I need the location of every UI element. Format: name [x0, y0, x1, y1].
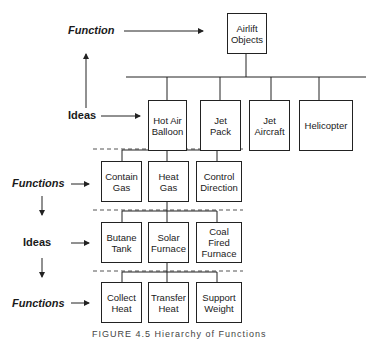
level-label-ideas: Ideas	[68, 109, 96, 121]
level-label-ideas-2: Ideas	[23, 236, 51, 248]
box-contain-gas: Contain Gas	[101, 161, 142, 202]
figure-caption: FIGURE 4.5 Hierarchy of Functions	[92, 329, 267, 339]
box-text: Butane Tank	[106, 232, 136, 254]
box-text: Transfer Heat	[151, 292, 186, 314]
box-coal-fired-furnace: Coal Fired Furnace	[196, 222, 242, 263]
box-heat-gas: Heat Gas	[148, 161, 189, 202]
box-hot-air-balloon: Hot Air Balloon	[148, 100, 187, 151]
box-text: Hot Air Balloon	[152, 115, 184, 137]
box-airlift-objects: Airlift Objects	[227, 13, 267, 54]
box-text: Heat Gas	[158, 171, 178, 193]
level-label-function: Function	[68, 24, 114, 36]
box-jet-pack: Jet Pack	[200, 100, 241, 151]
box-text: Support Weight	[202, 292, 235, 314]
box-jet-aircraft: Jet Aircraft	[249, 100, 290, 151]
box-text: Jet Aircraft	[254, 115, 284, 137]
level-label-functions-2: Functions	[12, 297, 65, 309]
box-text: Helicopter	[305, 120, 348, 131]
box-control-direction: Control Direction	[196, 161, 242, 202]
box-text: Control Direction	[200, 171, 238, 193]
box-transfer-heat: Transfer Heat	[148, 282, 189, 323]
box-text: Airlift Objects	[231, 23, 263, 45]
box-text: Jet Pack	[210, 115, 231, 137]
box-text: Collect Heat	[107, 292, 136, 314]
box-text: Coal Fired Furnace	[202, 226, 237, 259]
box-helicopter: Helicopter	[299, 100, 353, 151]
box-support-weight: Support Weight	[196, 282, 242, 323]
level-label-functions-1: Functions	[12, 177, 65, 189]
box-solar-furnace: Solar Furnace	[148, 222, 189, 263]
box-text: Contain Gas	[105, 171, 138, 193]
box-butane-tank: Butane Tank	[101, 222, 142, 263]
box-text: Solar Furnace	[151, 232, 186, 254]
box-collect-heat: Collect Heat	[101, 282, 142, 323]
